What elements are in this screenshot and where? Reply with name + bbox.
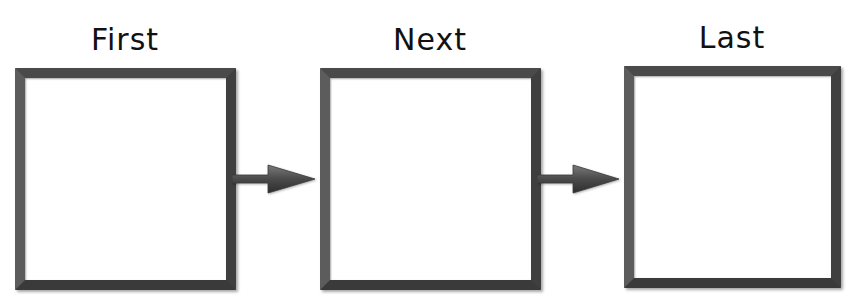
step-label-first: First	[15, 22, 235, 58]
right-arrow-icon	[232, 160, 322, 200]
step-box-next	[320, 68, 541, 290]
step-box-last	[624, 66, 841, 288]
step-label-last: Last	[622, 20, 842, 56]
step-box-first	[15, 68, 236, 290]
step-label-next: Next	[320, 22, 540, 58]
right-arrow-icon	[537, 160, 627, 200]
